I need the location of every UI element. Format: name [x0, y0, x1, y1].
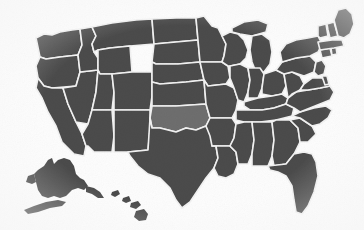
paper-grain-overlay — [0, 0, 364, 230]
us-map-container — [0, 0, 364, 230]
us-states-map[interactable] — [0, 0, 364, 230]
